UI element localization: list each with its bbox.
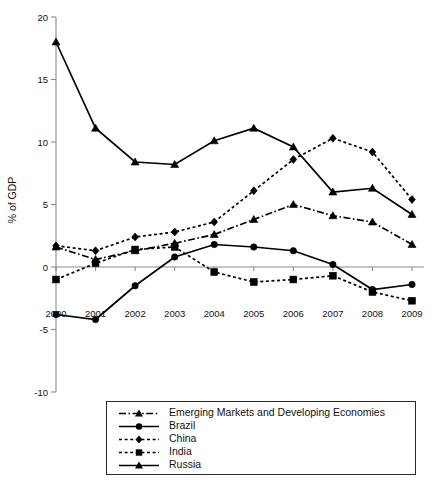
series-1-point-1	[92, 316, 98, 322]
series-3-point-7	[329, 272, 336, 279]
legend-marker-square-icon	[117, 445, 161, 458]
legend-marker-diamond-icon	[117, 432, 161, 445]
series-3-point-0	[53, 276, 60, 283]
series-1-point-5	[251, 244, 257, 250]
series-4-point-1	[92, 124, 100, 131]
x-axis-tick-label: 2007	[322, 308, 343, 319]
series-3-point-8	[369, 289, 376, 296]
x-axis-tick-label: 2002	[125, 308, 146, 319]
series-0-point-8	[368, 218, 376, 225]
series-line-2	[56, 138, 412, 251]
series-3-point-3	[171, 244, 178, 251]
series-1-point-4	[211, 241, 217, 247]
legend-item-label: China	[169, 432, 196, 445]
series-2-point-2	[132, 233, 139, 241]
series-1-point-9	[409, 281, 415, 287]
y-axis-tick-label: -10	[34, 387, 48, 398]
chart-figure: -10-505101520200020012002200320042005200…	[0, 0, 433, 485]
x-axis-tick-label: 2003	[164, 308, 185, 319]
series-1-point-2	[132, 283, 138, 289]
series-2-point-3	[171, 228, 178, 236]
series-1-point-3	[171, 254, 177, 260]
y-axis-title: % of GDP	[6, 177, 18, 224]
series-4-point-5	[250, 124, 258, 131]
legend-marker-circle-icon	[117, 419, 161, 432]
series-3-point-4	[211, 269, 218, 276]
legend-item: Russia	[117, 458, 415, 471]
series-3-point-1	[92, 260, 99, 267]
series-0-point-9	[408, 241, 416, 248]
series-1-point-0	[53, 311, 59, 317]
legend-sample-icon	[117, 459, 161, 472]
series-2-point-7	[329, 134, 336, 142]
series-0-point-6	[289, 201, 297, 208]
series-1-point-7	[330, 261, 336, 267]
y-axis-tick-label: 0	[43, 262, 48, 273]
series-2-point-4	[211, 218, 218, 226]
y-axis-tick-label: -5	[40, 324, 48, 335]
legend-item-label: India	[169, 445, 192, 458]
y-axis-tick-label: 15	[37, 74, 48, 85]
series-3-point-6	[290, 276, 297, 283]
series-3-point-9	[409, 297, 416, 304]
series-line-0	[56, 205, 412, 260]
legend-marker-triangle-icon	[117, 406, 161, 419]
series-4-point-0	[52, 38, 60, 45]
legend-item: Brazil	[117, 419, 415, 432]
x-axis-tick-label: 2006	[283, 308, 304, 319]
legend-item: Emerging Markets and Developing Economie…	[117, 406, 415, 419]
x-axis-tick-label: 2009	[401, 308, 422, 319]
x-axis-tick-label: 2008	[362, 308, 383, 319]
legend-item: India	[117, 445, 415, 458]
chart-plot-area: -10-505101520200020012002200320042005200…	[0, 0, 433, 400]
series-1-point-6	[290, 248, 296, 254]
legend-item-label: Brazil	[169, 419, 195, 432]
series-line-3	[56, 247, 412, 301]
legend-item: China	[117, 432, 415, 445]
legend-item-label: Russia	[169, 458, 201, 471]
series-3-point-5	[250, 279, 257, 286]
y-axis-tick-label: 20	[37, 12, 48, 23]
legend-item-label: Emerging Markets and Developing Economie…	[169, 406, 385, 419]
chart-legend: Emerging Markets and Developing Economie…	[106, 401, 416, 475]
y-axis-tick-label: 5	[43, 199, 48, 210]
series-line-4	[56, 42, 412, 215]
y-axis-tick-label: 10	[37, 137, 48, 148]
series-2-point-9	[409, 196, 416, 204]
x-axis-tick-label: 2005	[243, 308, 264, 319]
series-4-point-9	[408, 211, 416, 218]
series-2-point-1	[92, 247, 99, 255]
x-axis-tick-label: 2004	[204, 308, 225, 319]
series-3-point-2	[132, 246, 139, 253]
legend-marker-triangle-icon	[117, 458, 161, 471]
